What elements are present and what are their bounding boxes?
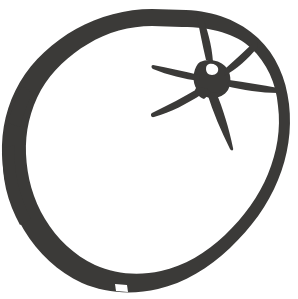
sketch-canvas: A thick hand-drawn ink oval outline of a… bbox=[0, 0, 298, 299]
outline-bottom-gap bbox=[115, 284, 128, 292]
tomato-sketch bbox=[0, 0, 298, 299]
